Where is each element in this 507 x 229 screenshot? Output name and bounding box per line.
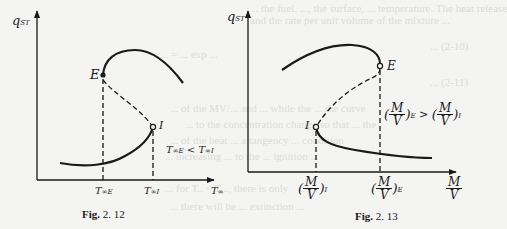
x-label-sub: ∞	[218, 188, 224, 196]
frac-den: V	[448, 189, 461, 201]
fig13-middle-branch	[318, 68, 380, 124]
caption-number: 2. 12	[103, 208, 125, 220]
tick-sub: ∞I	[151, 188, 160, 196]
fig12-lower-branch	[60, 127, 153, 165]
caption-prefix: Fig.	[355, 210, 373, 222]
fig12-y-label-sub: ST	[20, 19, 29, 27]
tick-main: T	[144, 185, 151, 196]
sub: E	[410, 112, 415, 120]
frac-M-V: MV	[437, 102, 453, 127]
fig12-point-E-label: E	[90, 68, 100, 81]
fig13-tick-MV-I: (MV)I	[298, 176, 327, 201]
x-label-main: T	[211, 185, 218, 196]
fig12-point-I-marker	[150, 124, 155, 129]
fig13-x-axis-label: MV	[446, 176, 462, 201]
fig13-tick-MV-E: (MV)E	[371, 176, 403, 201]
cond-op: >	[419, 108, 428, 121]
cond-op: <	[187, 144, 195, 155]
fig13-y-label-sub: ST	[235, 15, 244, 23]
cond-a: T	[166, 144, 173, 155]
cond-a-sub: ∞E	[173, 147, 184, 155]
fig13-condition: (MV)E > (MV)I	[384, 102, 461, 127]
frac-M-V: MV	[446, 176, 462, 201]
fig13-point-E-marker	[377, 63, 382, 68]
fig13-point-E-label: E	[387, 60, 396, 72]
sub: I	[458, 112, 461, 120]
frac-den: V	[378, 189, 391, 201]
fig13-point-I-label: I	[305, 120, 309, 131]
fig12-point-E-marker	[100, 72, 105, 77]
sub: E	[397, 186, 402, 194]
fig12-y-axis-label: qST	[12, 14, 30, 27]
tick-main: T	[95, 185, 102, 196]
fig12-caption: Fig. 2. 12	[82, 208, 125, 220]
fig12-upper-branch	[103, 50, 183, 83]
fig-2-13-plot	[248, 11, 456, 172]
frac-den: V	[391, 115, 404, 127]
fig13-caption: Fig. 2. 13	[355, 210, 398, 222]
cond-b-sub: ∞I	[205, 147, 214, 155]
frac-M-V: MV	[376, 176, 392, 201]
fig12-middle-branch	[103, 80, 153, 127]
fig12-condition: T∞E < T∞I	[166, 145, 214, 155]
fig12-x-axis-label: T∞	[211, 186, 224, 196]
fig13-lower-branch	[316, 127, 432, 158]
fig12-tick-TinfI: T∞I	[144, 186, 159, 196]
frac-den: V	[439, 115, 452, 127]
caption-prefix: Fig.	[82, 208, 100, 220]
fig13-y-axis-label: qST	[227, 10, 245, 23]
fig12-tick-TinfE: T∞E	[95, 186, 113, 196]
fig13-upper-branch	[282, 45, 380, 70]
sub: I	[324, 186, 327, 194]
frac-den: V	[305, 189, 318, 201]
frac-M-V: MV	[389, 102, 405, 127]
fig12-point-I-label: I	[159, 120, 163, 131]
frac-M-V: MV	[303, 176, 319, 201]
tick-sub: ∞E	[102, 188, 113, 196]
fig13-point-I-marker	[313, 124, 318, 129]
caption-number: 2. 13	[376, 210, 398, 222]
